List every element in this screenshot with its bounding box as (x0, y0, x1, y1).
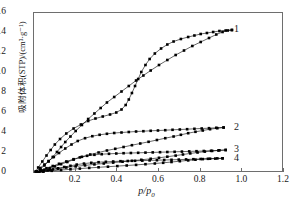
curve-3-desorption-marker (100, 153, 103, 156)
curve-1-desorption-marker (140, 71, 143, 74)
curve-1-desorption-marker (187, 36, 190, 39)
x-tick-mark (200, 168, 201, 172)
curve-4-adsorption-marker (88, 167, 91, 170)
curve-3-desorption-marker (86, 155, 89, 158)
x-tick-label-0.8: 0.8 (185, 175, 215, 185)
curve-4-desorption-marker (126, 160, 129, 163)
x-tick-mark (75, 168, 76, 172)
curve-2-desorption-marker (142, 130, 145, 133)
curve-1-desorption-marker (41, 160, 44, 163)
curve-2-desorption-marker (64, 147, 67, 150)
curve-1-desorption-marker (120, 108, 123, 111)
x-tick-label-0.4: 0.4 (101, 175, 131, 185)
curve-3-desorption-marker (217, 149, 220, 152)
curve-4-desorption-marker (156, 159, 159, 162)
curve-2-desorption-marker (208, 127, 211, 130)
curve-4-adsorption-marker (125, 164, 128, 167)
curve-1-desorption-marker (54, 143, 57, 146)
curve-3-desorption-marker (137, 152, 140, 155)
curve-4-desorption-marker (207, 158, 210, 161)
curve-1-adsorption-marker (69, 135, 72, 138)
y-tick-label-4: 4 (0, 127, 6, 137)
y-tick-label-10: 10 (0, 67, 6, 77)
curve-1-adsorption-marker (106, 101, 109, 104)
curve-2-adsorption-marker (147, 141, 150, 144)
curve-2-desorption-marker (39, 167, 42, 170)
curve-4-adsorption-marker (97, 166, 100, 169)
curve-3-desorption-marker (202, 150, 205, 153)
curve-2-desorption-marker (113, 132, 116, 135)
curve-2-desorption-marker (164, 129, 167, 132)
curve-1-desorption-marker (172, 40, 175, 43)
y-tick-label-2: 2 (0, 147, 6, 157)
curve-2-desorption-marker (179, 128, 182, 131)
curve-4-adsorption-marker (79, 167, 82, 170)
curve-1-desorption-marker (134, 85, 137, 88)
curve-4-desorption-marker (46, 169, 49, 172)
curve-1-desorption-marker (166, 43, 169, 46)
curve-3-desorption-marker (210, 150, 213, 153)
curve-4-desorption-marker (148, 159, 151, 162)
curve-3-desorption-marker (60, 163, 63, 166)
curve-4-adsorption-marker (162, 162, 165, 165)
curve-4-desorption-marker (75, 163, 78, 166)
curve-2-desorption-marker (91, 135, 94, 138)
curve-1-adsorption-marker (113, 96, 116, 99)
curve-1-adsorption-marker (183, 49, 186, 52)
curve-4-desorption-marker (51, 168, 54, 171)
curve-2-desorption-marker (106, 133, 109, 136)
curve-3-desorption-marker (79, 156, 82, 159)
curve-1-adsorption-marker (215, 33, 218, 36)
curve-3-desorption-marker (224, 149, 227, 152)
curve-3-adsorption-marker (166, 155, 169, 158)
curve-3-desorption-marker (173, 151, 176, 154)
curve-1-desorption-marker (124, 104, 127, 107)
curve-2-desorption-marker (70, 143, 73, 146)
curve-1-desorption-marker (218, 30, 221, 33)
curve-4-desorption-marker (170, 159, 173, 162)
curve-2-desorption-marker (171, 129, 174, 132)
curve-3-adsorption-marker (158, 157, 161, 160)
curve-2-desorption-marker (215, 127, 218, 130)
curve-3-adsorption-marker (93, 163, 96, 166)
curve-3-desorption-marker (130, 152, 133, 155)
curve-1-desorption-marker (144, 64, 147, 67)
curve-3-desorption-marker (122, 152, 125, 155)
curve-4-desorption-marker (57, 167, 60, 170)
curve-1-desorption-marker (212, 31, 215, 34)
curve-2-desorption-marker (193, 128, 196, 131)
curve-3-desorption-marker (151, 151, 154, 154)
y-tick-label-8: 8 (0, 87, 6, 97)
curve-4-adsorption-marker (135, 164, 138, 167)
curve-4-desorption-marker (185, 158, 188, 161)
curve-2-desorption-marker (98, 134, 101, 137)
curve-1-desorption-marker (109, 113, 112, 116)
x-axis-title-main: p/p (138, 185, 151, 196)
curve-1-desorption-marker (45, 154, 48, 157)
curve-2-adsorption-marker (114, 148, 117, 151)
curve-2-desorption-marker (157, 129, 160, 132)
y-tick-label-16: 16 (0, 7, 6, 17)
curve-1-desorption-marker (224, 29, 227, 32)
curve-4-desorption-marker (163, 159, 166, 162)
curve-1-desorption-marker (80, 123, 83, 126)
curve-1-adsorption-marker (93, 112, 96, 115)
y-axis-title: 吸附体积(STP)/(cm³·g⁻¹) (18, 1, 27, 133)
curve-2-adsorption-marker (139, 142, 142, 145)
curve-1-adsorption-marker (149, 69, 152, 72)
curve-1-adsorption-marker (74, 130, 77, 133)
curve-4-desorption-marker (38, 171, 41, 173)
curve-4-desorption-marker (83, 162, 86, 165)
curve-2-desorption-marker (120, 131, 123, 134)
curve-1-desorption-marker (160, 47, 163, 50)
curve-4-desorption-marker (90, 162, 93, 165)
curve-1-desorption-marker (148, 58, 151, 61)
y-tick-label-14: 14 (0, 27, 6, 37)
x-tick-label-0.2: 0.2 (60, 175, 90, 185)
x-axis-title: p/p0 (0, 186, 293, 199)
curve-1-desorption-marker (115, 111, 118, 114)
curve-2-desorption-marker (76, 140, 79, 143)
curve-3-desorption-marker (166, 151, 169, 154)
x-tick-label-1.0: 1.0 (226, 175, 256, 185)
curve-4-desorption-marker (63, 166, 66, 169)
